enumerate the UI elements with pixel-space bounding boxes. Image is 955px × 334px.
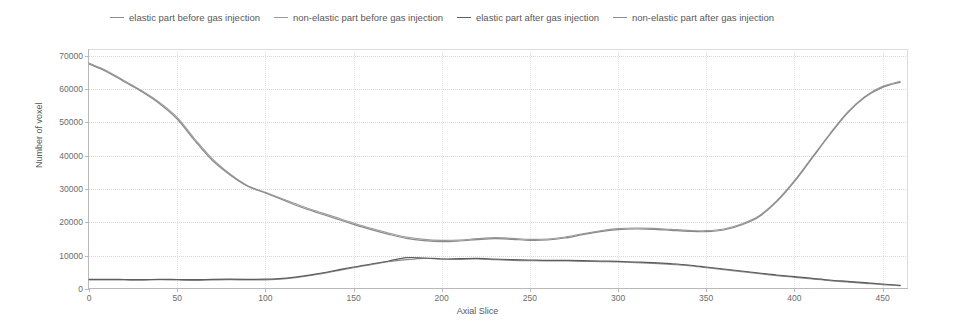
- x-tick-label: 350: [699, 293, 713, 303]
- y-tick-label: 50000: [59, 117, 83, 127]
- x-tick-label: 250: [523, 293, 537, 303]
- series-line: [89, 63, 900, 240]
- x-tick-label: 100: [258, 293, 272, 303]
- legend-line-swatch-icon: [457, 17, 471, 18]
- x-tick-label: 200: [435, 293, 449, 303]
- plot-area: 010000200003000040000500006000070000 050…: [88, 49, 908, 289]
- x-tick-label: 450: [875, 293, 889, 303]
- x-tick-label: 300: [611, 293, 625, 303]
- x-tick-label: 50: [172, 293, 181, 303]
- legend-item-label: non-elastic part after gas injection: [632, 12, 774, 23]
- legend-item[interactable]: non-elastic part after gas injection: [613, 12, 774, 23]
- legend-item[interactable]: elastic part before gas injection: [110, 12, 260, 23]
- y-tick-label: 40000: [59, 151, 83, 161]
- legend-item[interactable]: non-elastic part before gas injection: [274, 12, 443, 23]
- legend-line-swatch-icon: [110, 17, 124, 18]
- chart-legend: elastic part before gas injectionnon-ela…: [110, 12, 855, 23]
- series-lines: [89, 49, 909, 289]
- legend-item-label: non-elastic part before gas injection: [293, 12, 443, 23]
- x-tick-label: 400: [787, 293, 801, 303]
- series-line: [89, 257, 900, 285]
- series-line: [89, 258, 900, 285]
- y-tick-label: 10000: [59, 251, 83, 261]
- y-axis-label: Number of voxel: [34, 102, 44, 168]
- legend-line-swatch-icon: [274, 17, 288, 18]
- y-tick-label: 60000: [59, 84, 83, 94]
- legend-item[interactable]: elastic part after gas injection: [457, 12, 599, 23]
- y-tick-label: 30000: [59, 184, 83, 194]
- y-tick-label: 20000: [59, 217, 83, 227]
- legend-line-swatch-icon: [613, 17, 627, 18]
- x-tick-label: 150: [346, 293, 360, 303]
- x-tick-label: 0: [87, 293, 92, 303]
- y-tick-label: 70000: [59, 51, 83, 61]
- series-line: [89, 64, 900, 242]
- legend-item-label: elastic part after gas injection: [476, 12, 599, 23]
- legend-item-label: elastic part before gas injection: [129, 12, 260, 23]
- y-tick-label: 0: [78, 284, 83, 294]
- x-axis-label: Axial Slice: [0, 306, 955, 316]
